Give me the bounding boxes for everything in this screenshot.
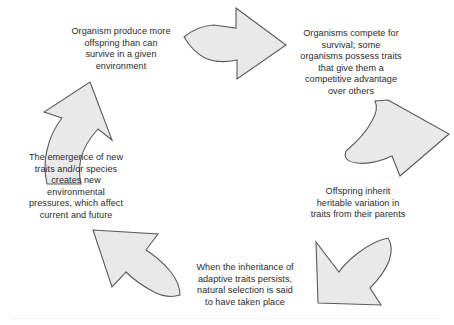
page-edge-artifact [10,318,440,319]
step-label-emergence: The emergence of new traits and/or speci… [2,152,150,222]
arrow-down-left-curved-icon [316,238,391,305]
step-label-inheritance: Offspring inherit heritable variation in… [288,186,428,221]
arrow-up-left-curved-icon [93,230,180,296]
step-label-selection: When the inheritance of adaptive traits … [175,262,315,308]
arrow-right-curved-icon [184,8,286,79]
step-label-competition: Organisms compete for survival; some org… [280,28,422,98]
arrow-down-curved-icon [345,100,449,176]
natural-selection-cycle-diagram: Organism produce more offspring than can… [0,0,454,325]
step-label-overproduction: Organism produce more offspring than can… [48,26,194,72]
